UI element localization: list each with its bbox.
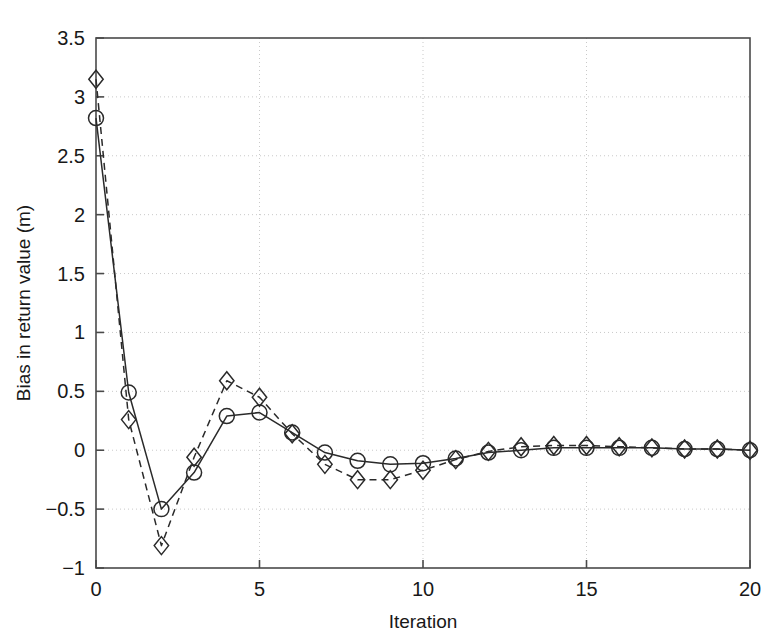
x-tick-label: 15	[575, 578, 597, 600]
y-tick-label: 0	[74, 439, 85, 461]
x-tick-label: 5	[254, 578, 265, 600]
y-axis-title: Bias in return value (m)	[13, 205, 34, 401]
chart-figure: −1−0.500.511.522.533.5 05101520 Iteratio…	[0, 0, 777, 639]
y-tick-label: 1	[74, 321, 85, 343]
x-tick-label: 10	[412, 578, 434, 600]
y-tick-label: −1	[62, 557, 85, 579]
y-tick-label: 1.5	[57, 263, 85, 285]
y-tick-labels: −1−0.500.511.522.533.5	[46, 27, 85, 579]
y-tick-label: 3	[74, 86, 85, 108]
y-tick-label: 2	[74, 204, 85, 226]
x-axis-title: Iteration	[389, 611, 458, 632]
y-tick-label: −0.5	[46, 498, 85, 520]
x-tick-label: 20	[739, 578, 761, 600]
y-tick-label: 2.5	[57, 145, 85, 167]
y-tick-label: 0.5	[57, 380, 85, 402]
chart-canvas: −1−0.500.511.522.533.5 05101520 Iteratio…	[0, 0, 777, 639]
x-tick-labels: 05101520	[90, 578, 761, 600]
x-tick-label: 0	[90, 578, 101, 600]
y-tick-label: 3.5	[57, 27, 85, 49]
